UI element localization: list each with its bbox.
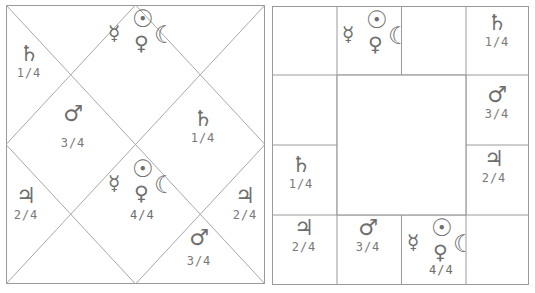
fraction-label: 1/4 bbox=[14, 67, 44, 79]
venus-icon: ♀ bbox=[134, 183, 149, 203]
mars-icon: ♂ bbox=[480, 84, 514, 106]
moon-icon: ☾ bbox=[388, 24, 410, 48]
cell-r3c0: ♃ 2/4 bbox=[287, 217, 321, 253]
sun-icon: ☉ bbox=[431, 216, 453, 240]
jupiter-icon: ♃ bbox=[287, 217, 321, 239]
fraction-label: 3/4 bbox=[351, 241, 385, 253]
south-indian-chart: ☉ ☿ ♀ ☾ ♄ 1/4 ♂ 3/4 ♄ 1/4 ♃ 2/4 ♃ 2/4 ♂ … bbox=[272, 6, 529, 285]
sun-icon: ☉ bbox=[366, 8, 388, 32]
saturn-icon: ♄ bbox=[14, 43, 44, 65]
mercury-icon: ☿ bbox=[407, 232, 419, 252]
house-right: ♃ 2/4 bbox=[228, 185, 262, 221]
fraction-label: 2/4 bbox=[287, 241, 321, 253]
cell-r2c3: ♃ 2/4 bbox=[477, 148, 511, 184]
venus-icon: ♀ bbox=[368, 34, 383, 54]
sun-icon: ☉ bbox=[132, 7, 154, 31]
cell-r2c0: ♄ 1/4 bbox=[284, 154, 318, 190]
fraction-label: 3/4 bbox=[480, 108, 514, 120]
fraction-label: 2/4 bbox=[228, 209, 262, 221]
house-top-center: ☉ ☿ ♀ ☾ bbox=[106, 7, 176, 59]
mercury-icon: ☿ bbox=[342, 24, 354, 44]
house-upper-left-inner: ♂ 3/4 bbox=[56, 103, 90, 149]
fraction-label: 2/4 bbox=[477, 172, 511, 184]
moon-icon: ☾ bbox=[154, 23, 176, 47]
fraction-label: 3/4 bbox=[182, 255, 216, 267]
fraction-label: 4/4 bbox=[130, 209, 155, 221]
jupiter-icon: ♃ bbox=[228, 185, 262, 207]
cell-r0c1: ☉ ☿ ♀ ☾ bbox=[340, 8, 410, 60]
house-bottom-right-inner: ♂ 3/4 bbox=[182, 227, 216, 267]
house-upper-right-inner: ♄ 1/4 bbox=[186, 108, 220, 144]
cell-r0c3: ♄ 1/4 bbox=[480, 12, 514, 48]
fraction-label: 2/4 bbox=[9, 209, 43, 221]
fraction-label: 1/4 bbox=[284, 178, 318, 190]
mercury-icon: ☿ bbox=[108, 173, 120, 193]
fraction-label: 4/4 bbox=[429, 264, 454, 276]
house-center: ☉ ☿ ♀ ☾ 4/4 bbox=[106, 157, 176, 209]
house-left: ♃ 2/4 bbox=[9, 185, 43, 221]
cell-r3c2: ☉ ☿ ♀ ☾ 4/4 bbox=[405, 216, 475, 268]
saturn-icon: ♄ bbox=[480, 12, 514, 34]
north-indian-chart: ☉ ☿ ♀ ☾ ♄ 1/4 ♂ 3/4 ♄ 1/4 ♃ 2/4 ☉ ☿ ♀ ☾ … bbox=[6, 5, 265, 284]
house-top-left: ♄ 1/4 bbox=[14, 43, 44, 79]
jupiter-icon: ♃ bbox=[477, 148, 511, 170]
cell-r3c1: ♂ 3/4 bbox=[351, 217, 385, 253]
jupiter-icon: ♃ bbox=[9, 185, 43, 207]
mars-icon: ♂ bbox=[56, 103, 90, 125]
saturn-icon: ♄ bbox=[186, 108, 220, 130]
moon-icon: ☾ bbox=[453, 232, 475, 256]
saturn-icon: ♄ bbox=[284, 154, 318, 176]
cell-r1c3: ♂ 3/4 bbox=[480, 84, 514, 120]
fraction-label: 3/4 bbox=[56, 137, 90, 149]
fraction-label: 1/4 bbox=[480, 36, 514, 48]
venus-icon: ♀ bbox=[433, 242, 448, 262]
mars-icon: ♂ bbox=[351, 217, 385, 239]
mars-icon: ♂ bbox=[182, 227, 216, 249]
moon-icon: ☾ bbox=[154, 173, 176, 197]
venus-icon: ♀ bbox=[134, 33, 149, 53]
fraction-label: 1/4 bbox=[186, 132, 220, 144]
sun-icon: ☉ bbox=[132, 157, 154, 181]
mercury-icon: ☿ bbox=[108, 23, 120, 43]
